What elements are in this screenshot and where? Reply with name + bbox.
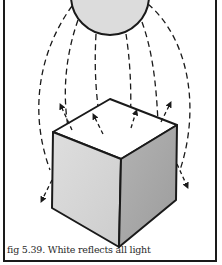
illustration — [0, 0, 222, 265]
figure: fig 5.39. White reflects all light — [0, 0, 222, 265]
figure-caption: fig 5.39. White reflects all light — [7, 244, 151, 255]
cube — [52, 99, 177, 247]
light-source-sphere — [71, 0, 149, 35]
